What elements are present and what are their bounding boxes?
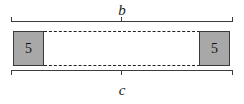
dimension-label-c: c <box>112 83 132 98</box>
end-square-right-value: 5 <box>211 42 218 56</box>
brace-bottom-tick-left <box>11 70 12 75</box>
brace-top-bar <box>11 21 233 22</box>
brace-top-tick-center <box>121 17 122 21</box>
geometry-diagram: b 5 5 c <box>0 0 244 104</box>
dimension-brace-bottom <box>11 69 233 76</box>
brace-top-tick-right <box>232 17 233 22</box>
brace-top-tick-left <box>11 17 12 22</box>
end-square-right: 5 <box>199 31 230 66</box>
end-square-left-value: 5 <box>25 42 32 56</box>
end-square-left: 5 <box>13 31 44 66</box>
brace-bottom-tick-center <box>121 71 122 75</box>
brace-bottom-tick-right <box>232 70 233 75</box>
brace-bottom-bar <box>11 70 233 71</box>
dimension-brace-top <box>11 16 233 23</box>
inner-dashed-region <box>44 31 200 66</box>
